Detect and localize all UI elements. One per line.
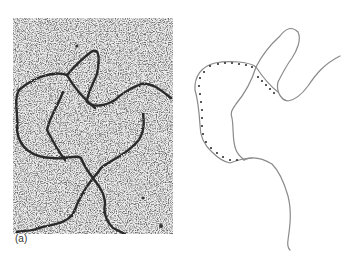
strand-tracing-drawing [180,0,355,265]
traced-strand [195,29,340,250]
panel-label: (a) [15,233,27,244]
electron-micrograph [13,18,173,234]
